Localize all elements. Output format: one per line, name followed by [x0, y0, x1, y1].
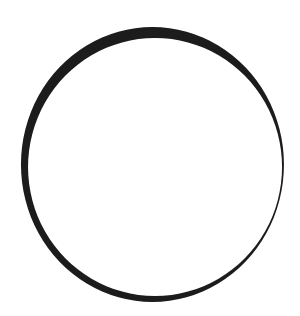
ring-figure — [0, 0, 300, 316]
ring-shape — [21, 27, 284, 302]
